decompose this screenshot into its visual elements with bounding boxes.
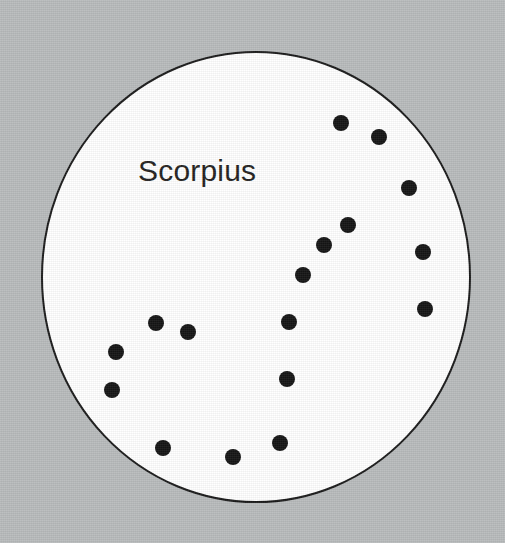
star-marker (340, 217, 356, 233)
star-marker (316, 237, 332, 253)
star-marker (108, 344, 124, 360)
star-marker (279, 371, 295, 387)
star-marker (225, 449, 241, 465)
star-marker (417, 301, 433, 317)
star-marker (155, 440, 171, 456)
star-chart-canvas: Scorpius (0, 0, 505, 543)
star-marker (180, 324, 196, 340)
star-marker (371, 129, 387, 145)
constellation-label: Scorpius (138, 156, 256, 186)
star-marker (281, 314, 297, 330)
star-marker (295, 267, 311, 283)
star-marker (148, 315, 164, 331)
star-marker (272, 435, 288, 451)
star-marker (333, 115, 349, 131)
star-marker (415, 244, 431, 260)
star-marker (401, 180, 417, 196)
sky-disc (42, 52, 470, 502)
star-marker (104, 382, 120, 398)
